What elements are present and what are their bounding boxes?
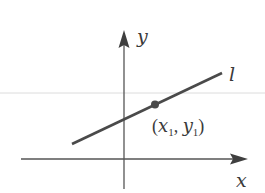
- line-label: l: [229, 63, 235, 85]
- point-label-x-var: x: [158, 115, 168, 136]
- point-label-close: ): [198, 116, 204, 137]
- x-axis-label: x: [236, 169, 247, 191]
- y-axis: [119, 30, 130, 189]
- point-label-sep: ,: [174, 116, 183, 136]
- y-axis-label: y: [136, 25, 148, 47]
- line-through-point-diagram: y x l (x1, y1): [0, 0, 265, 193]
- diagram-svg: y x l (x1, y1): [0, 0, 265, 193]
- point-x1-y1: [151, 101, 159, 109]
- point-label: (x1, y1): [152, 115, 204, 138]
- x-axis: [21, 154, 248, 165]
